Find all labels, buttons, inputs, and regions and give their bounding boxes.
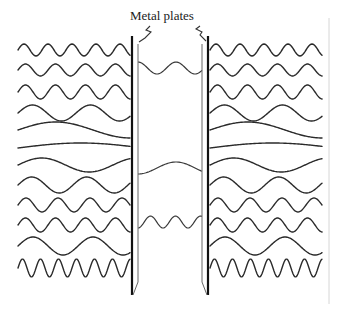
outside-waves-right: [210, 44, 322, 277]
wave-line: [210, 143, 322, 148]
wave-line: [210, 218, 322, 232]
metal-plates-label: Metal plates: [130, 8, 194, 24]
wave-line: [210, 44, 322, 56]
wave-line: [18, 237, 130, 255]
wave-line: [138, 62, 202, 74]
wave-line: [18, 198, 130, 212]
wave-line: [18, 143, 130, 148]
wave-line: [18, 64, 130, 76]
right-metal-plate: [202, 36, 208, 295]
wave-line: [210, 105, 322, 121]
wave-line: [18, 158, 130, 172]
wave-line: [210, 85, 322, 99]
wave-line: [18, 105, 130, 121]
wave-line: [18, 177, 130, 193]
outside-waves-left: [18, 44, 130, 277]
wave-line: [18, 122, 130, 138]
wave-line: [210, 259, 322, 277]
left-metal-plate: [132, 36, 138, 295]
right-leader-line: [196, 26, 206, 41]
wave-line: [18, 44, 130, 56]
wave-line: [210, 122, 322, 138]
wave-line: [210, 64, 322, 76]
wave-line: [210, 198, 322, 212]
wave-line: [138, 216, 202, 228]
wave-line: [18, 259, 130, 277]
left-leader-line: [139, 26, 151, 42]
standing-waves-between-plates: [138, 62, 202, 228]
wave-line: [138, 162, 202, 174]
wave-line: [210, 237, 322, 255]
wave-line: [18, 85, 130, 99]
wave-line: [210, 158, 322, 172]
wave-line: [18, 218, 130, 232]
wave-line: [210, 177, 322, 193]
standing-wave-diagram: [0, 0, 347, 316]
